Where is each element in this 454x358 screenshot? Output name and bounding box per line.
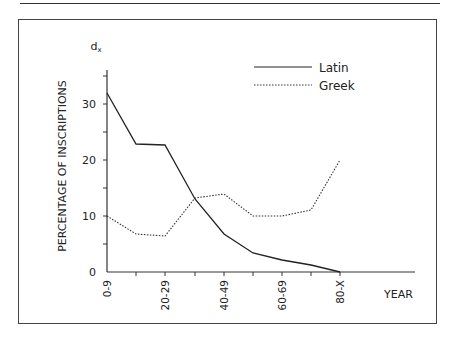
- series-latin-line: [107, 93, 340, 272]
- line-chart: Latin Greek dx 30 20 10 0 PERCENTAGE OF …: [0, 0, 454, 358]
- y-top-symbol: dx: [90, 40, 101, 54]
- legend-greek-label: Greek: [319, 79, 355, 93]
- series-greek-line: [107, 160, 340, 236]
- legend-latin-label: Latin: [319, 61, 349, 75]
- y-tick-label-0: 0: [89, 266, 96, 279]
- x-tick-label-60-69: 60-69: [276, 280, 288, 311]
- x-tick-label-80-x: 80-X: [334, 280, 346, 304]
- y-tick-label-30: 30: [82, 98, 96, 111]
- y-axis-title: PERCENTAGE OF INSCRIPTIONS: [56, 80, 69, 252]
- x-tick-label-20-29: 20-29: [159, 280, 171, 311]
- y-tick-label-20: 20: [82, 154, 96, 167]
- x-tick-label-0-9: 0-9: [101, 280, 113, 297]
- x-tick-label-40-49: 40-49: [218, 280, 230, 311]
- x-axis-title: YEAR: [383, 288, 413, 301]
- y-tick-label-10: 10: [82, 210, 96, 223]
